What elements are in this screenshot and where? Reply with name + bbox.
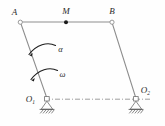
alpha-arc-arrow [29, 44, 56, 57]
omega-arc-arrow [31, 69, 58, 82]
omega-arc-path [31, 69, 58, 80]
label-angular-velocity: ω [59, 69, 65, 79]
point-m-mass-marker [64, 20, 68, 24]
label-pivot-o1-subscript: 1 [32, 99, 35, 105]
link-BO2 [112, 23, 136, 99]
o2-hatching [129, 110, 143, 114]
pin-support-o2 [129, 97, 144, 114]
label-point-b: B [109, 6, 115, 16]
o1-hatching [40, 110, 54, 114]
o2-pin-box [134, 97, 139, 101]
crank-link-O1A [21, 23, 48, 99]
label-pivot-o2-subscript: 2 [147, 90, 150, 96]
joint-a-pin [18, 20, 22, 24]
label-angular-acceleration: α [58, 44, 63, 54]
alpha-arc-path [29, 44, 56, 55]
label-point-a: A [11, 7, 18, 17]
o2-support-triangle [130, 101, 142, 109]
linkage-diagram-canvas: A M B O 1 O 2 α ω [0, 0, 165, 126]
o1-support-triangle [41, 101, 53, 109]
linkage-members [21, 22, 137, 99]
mechanism-figure: A M B O 1 O 2 α ω [0, 0, 165, 126]
o1-pin-box [45, 97, 50, 101]
label-point-m: M [61, 6, 70, 16]
joint-b-pin [110, 20, 114, 24]
